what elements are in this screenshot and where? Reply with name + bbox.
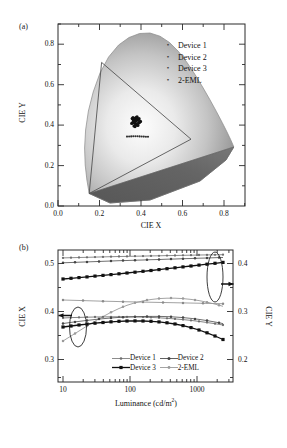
legend-label: Device 2 [178, 354, 204, 362]
panel-a-ytick-4: 0.8 [32, 39, 54, 48]
panel-a-xticks [58, 200, 245, 206]
legend-label: Device 3 [173, 63, 207, 75]
panel-b-ylabel-right: CIE Y [264, 292, 273, 342]
legend-label: Device 1 [173, 40, 207, 52]
legend-label: Device 1 [130, 354, 156, 362]
panel-b: (b) [0, 236, 287, 448]
legend-item-device-2: Device 2 [158, 354, 206, 364]
panel-b-xlabel-tail: ) [174, 399, 177, 408]
panel-b-xlabel: Luminance (cd/m2) [100, 397, 192, 408]
panel-a-xtick-3: 0.6 [171, 209, 195, 218]
legend-label: 2-EML [173, 75, 202, 87]
panel-a-legend: • Device 1 • Device 2 • Device 3 • 2-EML [163, 40, 207, 86]
panel-b-xlabel-text: Luminance (cd/m [115, 399, 172, 408]
panel-a-xtick-1: 0.2 [88, 209, 112, 218]
legend-symbol-device-2-icon [160, 355, 178, 362]
legend-item-device-1: • Device 1 [163, 40, 207, 52]
panel-a-ytick-0: 0.0 [32, 201, 54, 210]
legend-label: 2-EML [178, 364, 199, 372]
panel-b-ytick-left-2: 0.5 [32, 259, 54, 268]
legend-item-device-3: Device 3 [110, 364, 158, 374]
panel-b-yticks-left [58, 264, 64, 378]
panel-a-ytick-3: 0.6 [32, 80, 54, 89]
panel-b-letter: (b) [19, 243, 28, 252]
panel-b-ytick-left-0: 0.3 [32, 355, 54, 364]
panel-a-ylabel: CIE Y [18, 88, 27, 138]
legend-label: Device 2 [173, 52, 207, 64]
legend-symbol-device-1-icon [112, 355, 130, 362]
panel-b-ytick-right-1: 0.3 [238, 307, 260, 316]
legend-marker-dot-icon: • [163, 63, 173, 75]
panel-a-yticks [58, 24, 64, 206]
panel-a-xtick-4: 0.8 [212, 209, 236, 218]
legend-symbol-2eml-icon [160, 364, 178, 371]
panel-a-xtick-2: 0.4 [129, 209, 153, 218]
legend-label: Device 3 [130, 364, 156, 372]
series-2eml-right-markers [62, 299, 225, 305]
legend-item-device-2: • Device 2 [163, 52, 207, 64]
panel-a-xtick-0: 0.0 [46, 209, 70, 218]
panel-b-yticks-right [227, 264, 233, 378]
panel-b-xtick-2: 1000 [185, 385, 209, 394]
panel-b-ytick-right-0: 0.2 [238, 355, 260, 364]
panel-a-ytick-2: 0.4 [32, 120, 54, 129]
panel-b-ytick-right-2: 0.4 [238, 259, 260, 268]
chromaticity-locus [85, 33, 234, 203]
legend-item-2eml: 2-EML [158, 364, 206, 374]
panel-b-legend: Device 1 Device 2 Device 3 [110, 354, 206, 373]
panel-a-xticks-top [79, 24, 224, 30]
legend-item-2eml: • 2-EML [163, 75, 207, 87]
legend-marker-dot-icon: • [163, 52, 173, 64]
panel-b-ylabel-left: CIE X [18, 292, 27, 342]
annotation-right-axis-pointer [207, 252, 234, 302]
legend-symbol-device-3-icon [112, 364, 130, 371]
panel-a-ytick-1: 0.2 [32, 161, 54, 170]
figure-root: (a) [0, 0, 287, 448]
panel-b-ytick-left-1: 0.4 [32, 307, 54, 316]
panel-b-xtick-0: 10 [51, 385, 75, 394]
panel-a: (a) [0, 0, 287, 240]
legend-item-device-1: Device 1 [110, 354, 158, 364]
panel-a-yticks-right [239, 44, 245, 186]
series-device3-right-markers [61, 261, 224, 281]
legend-marker-dot-icon: • [163, 75, 173, 87]
panel-a-xlabel: CIE X [106, 221, 196, 230]
legend-item-device-3: • Device 3 [163, 63, 207, 75]
panel-a-letter: (a) [19, 22, 28, 31]
legend-marker-dot-icon: • [163, 40, 173, 52]
panel-b-xtick-1: 100 [118, 385, 142, 394]
